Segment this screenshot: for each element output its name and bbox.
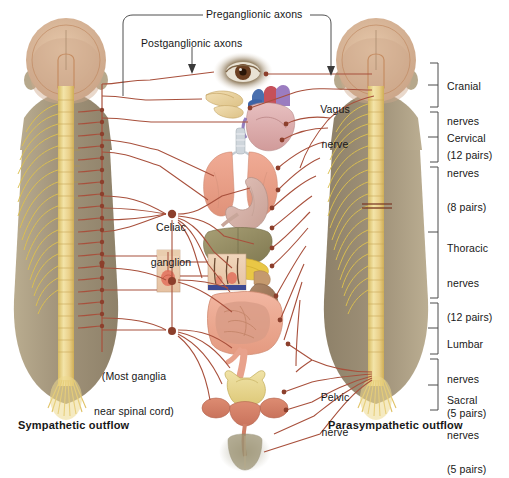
label-cervical-line1: Cervical xyxy=(447,133,486,145)
label-most-ganglia-line2: near spinal cord) xyxy=(80,406,188,418)
label-lumbar-line1: Lumbar xyxy=(447,339,486,351)
label-thoracic-line2: nerves xyxy=(447,278,492,290)
figure-canvas xyxy=(0,0,509,478)
label-vagus-nerve-line1: Vagus xyxy=(311,104,359,116)
organ-reproductive-organs xyxy=(202,398,288,472)
label-sacral-nerves: Sacral nerves (5 pairs) xyxy=(447,372,486,478)
label-celiac-ganglion-line2: ganglion xyxy=(138,257,204,269)
autonomic-nervous-system-figure: Preganglionic axons Postganglionic axons… xyxy=(0,0,509,478)
label-thoracic-line1: Thoracic xyxy=(447,243,492,255)
label-sacral-line1: Sacral xyxy=(447,395,486,407)
label-parasympathetic-outflow: Parasympathetic outflow xyxy=(328,420,463,432)
spinal-nerve-brackets xyxy=(428,63,438,410)
label-pelvic-nerve-line1: Pelvic xyxy=(311,392,359,404)
label-celiac-ganglion: Celiac ganglion xyxy=(138,199,204,291)
label-sacral-line3: (5 pairs) xyxy=(447,464,486,476)
label-sacral-line2: nerves xyxy=(447,430,486,442)
label-cervical-line2: nerves xyxy=(447,168,486,180)
label-vagus-nerve-line2: nerve xyxy=(311,139,359,151)
label-preganglionic-axons: Preganglionic axons xyxy=(206,9,302,21)
label-sympathetic-outflow: Sympathetic outflow xyxy=(18,420,129,432)
label-celiac-ganglion-line1: Celiac xyxy=(138,222,204,234)
label-cranial-line1: Cranial xyxy=(447,81,492,93)
organ-eye xyxy=(213,52,273,92)
label-vagus-nerve: Vagus nerve xyxy=(311,81,359,173)
label-cervical-line3: (8 pairs) xyxy=(447,202,486,214)
label-cervical-nerves: Cervical nerves (8 pairs) xyxy=(447,110,486,237)
organ-salivary-glands xyxy=(206,91,243,118)
organ-bladder xyxy=(225,371,265,406)
organ-intestines xyxy=(208,292,283,377)
right-body-figure xyxy=(324,18,428,420)
label-postganglionic-axons: Postganglionic axons xyxy=(141,38,242,50)
preganglionic-leader-left xyxy=(123,15,203,96)
label-most-ganglia-line1: (Most ganglia xyxy=(80,371,188,383)
label-pelvic-nerve: Pelvic nerve xyxy=(311,369,359,461)
preganglionic-leader-right xyxy=(310,15,331,66)
